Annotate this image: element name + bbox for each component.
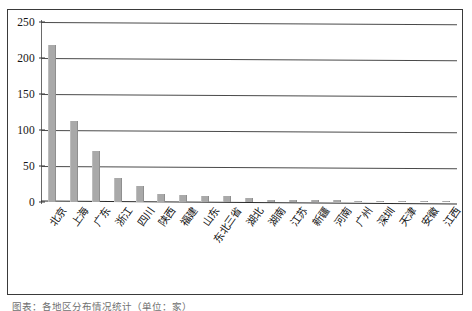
x-tick-label: 浙江 bbox=[111, 204, 135, 229]
x-tick-label: 深圳 bbox=[374, 204, 398, 229]
x-tick-label: 湖南 bbox=[264, 204, 288, 229]
bar bbox=[114, 178, 122, 202]
x-tick-label: 上海 bbox=[67, 204, 91, 229]
bar bbox=[179, 195, 187, 202]
bar bbox=[442, 201, 450, 202]
bars-group bbox=[41, 22, 457, 202]
y-tick-label-0: 0 bbox=[29, 196, 35, 208]
x-tick-label: 陕西 bbox=[155, 204, 179, 229]
x-tick-label: 广东 bbox=[89, 204, 113, 229]
bar bbox=[48, 45, 56, 202]
bar bbox=[201, 196, 209, 202]
y-tick-label-150: 150 bbox=[17, 88, 35, 100]
bar bbox=[92, 151, 100, 202]
x-tick-label: 安徽 bbox=[418, 204, 442, 229]
plot-area bbox=[41, 22, 457, 202]
y-tick-label-100: 100 bbox=[17, 124, 35, 136]
figure-caption: 图表：各地区分布情况统计（单位：家） bbox=[12, 299, 462, 311]
y-axis-tick-labels: 050100150200250 bbox=[4, 22, 35, 202]
x-axis-category-labels: 北京上海广东浙江四川陕西福建山东东北三省湖北湖南江苏新疆河南广州深圳天津安徽江西 bbox=[41, 204, 457, 282]
bar bbox=[354, 201, 362, 202]
x-tick-label: 广州 bbox=[352, 204, 376, 229]
bar bbox=[333, 200, 341, 202]
x-tick-label: 河南 bbox=[330, 204, 354, 229]
x-tick-label: 新疆 bbox=[308, 204, 332, 229]
x-tick-label: 福建 bbox=[177, 204, 201, 229]
bar bbox=[267, 200, 275, 202]
bar bbox=[245, 198, 253, 202]
bar bbox=[311, 200, 319, 202]
x-tick-label: 江苏 bbox=[286, 204, 310, 229]
bar bbox=[136, 186, 144, 202]
y-tick-label-50: 50 bbox=[23, 160, 35, 172]
x-tick-label: 天津 bbox=[396, 204, 420, 229]
bar bbox=[398, 201, 406, 202]
bar bbox=[157, 194, 165, 202]
y-tick-label-250: 250 bbox=[17, 16, 35, 28]
x-tick-label: 四川 bbox=[133, 204, 157, 229]
bar bbox=[376, 201, 384, 202]
y-tick-label-200: 200 bbox=[17, 52, 35, 64]
x-tick-label: 北京 bbox=[45, 204, 69, 229]
bar bbox=[289, 200, 297, 202]
x-tick-label: 湖北 bbox=[243, 204, 267, 229]
chart-figure: 050100150200250 北京上海广东浙江四川陕西福建山东东北三省湖北湖南… bbox=[0, 0, 472, 311]
bar bbox=[223, 196, 231, 202]
bar bbox=[70, 121, 78, 202]
bar bbox=[420, 201, 428, 202]
